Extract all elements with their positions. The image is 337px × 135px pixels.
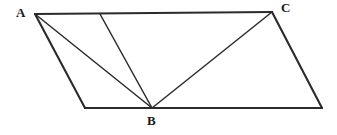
vertex-label-c: C <box>281 1 290 14</box>
segment-right-edge-C-to-E <box>272 12 322 108</box>
segment-cevian-T-to-B <box>100 14 152 108</box>
segment-cevian-B-to-C <box>152 12 272 108</box>
geometry-figure: A B C <box>0 0 337 135</box>
vertex-label-a: A <box>16 6 25 19</box>
segment-top-edge-A-to-C <box>35 12 272 14</box>
figure-canvas <box>0 0 337 135</box>
vertex-label-b: B <box>147 114 156 127</box>
segment-cevian-A-to-B <box>35 14 152 108</box>
segment-left-edge-D-to-A <box>35 14 85 108</box>
